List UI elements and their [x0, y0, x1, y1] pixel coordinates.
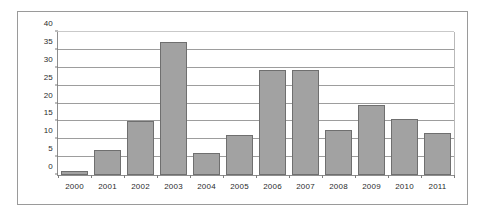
bar-2002[interactable]	[127, 121, 155, 175]
x-axis-tick-mark	[58, 175, 59, 178]
bar-2005[interactable]	[226, 135, 254, 175]
y-axis-tick-label: 5	[48, 144, 53, 153]
x-axis-tick-mark	[289, 175, 290, 178]
x-axis-tick-label-2009: 2009	[362, 182, 381, 191]
bar-2007[interactable]	[292, 70, 320, 175]
x-axis-tick-label-2002: 2002	[131, 182, 150, 191]
bar-2011[interactable]	[424, 133, 452, 175]
x-axis-tick-mark	[124, 175, 125, 178]
x-axis-tick-mark	[190, 175, 191, 178]
bar-2004[interactable]	[193, 153, 221, 175]
bar-2009[interactable]	[358, 105, 386, 175]
x-axis-tick-label-2003: 2003	[164, 182, 183, 191]
bar-slot	[256, 32, 289, 175]
bar-slot	[388, 32, 421, 175]
y-axis-tick-label: 10	[44, 126, 53, 135]
x-axis-tick-label-2011: 2011	[428, 182, 446, 191]
bar-2010[interactable]	[391, 119, 419, 175]
x-axis-tick-label-2001: 2001	[98, 182, 117, 191]
plot-area: 0510152025303540 20002001200220032004200…	[57, 32, 455, 176]
x-axis-tick-mark	[421, 175, 422, 178]
y-axis-tick-label: 25	[44, 72, 53, 81]
x-axis-tick-label-2005: 2005	[230, 182, 249, 191]
x-axis-tick-mark	[157, 175, 158, 178]
bar-2006[interactable]	[259, 70, 287, 175]
y-axis-tick-label: 30	[44, 54, 53, 63]
x-axis-tick-mark	[322, 175, 323, 178]
y-axis-tick-label: 40	[44, 19, 53, 28]
x-axis-tick-mark	[388, 175, 389, 178]
x-axis-tick-mark	[355, 175, 356, 178]
y-axis-tick-label: 20	[44, 90, 53, 99]
bar-slot	[322, 32, 355, 175]
x-axis-tick-label-2008: 2008	[329, 182, 348, 191]
x-axis-tick-label-2010: 2010	[395, 182, 414, 191]
x-axis-tick-mark	[256, 175, 257, 178]
bar-slot	[289, 32, 322, 175]
bar-slot	[124, 32, 157, 175]
x-axis-tick-label-2007: 2007	[296, 182, 315, 191]
y-axis-tick-label: 15	[44, 108, 53, 117]
bar-slot	[157, 32, 190, 175]
bar-slot	[355, 32, 388, 175]
y-axis-tick-label: 0	[48, 162, 53, 171]
bar-2001[interactable]	[94, 150, 122, 175]
x-axis-tick-mark	[223, 175, 224, 178]
bar-slot	[58, 32, 91, 175]
x-axis-tick-label-2000: 2000	[65, 182, 84, 191]
chart-figure: 0510152025303540 20002001200220032004200…	[17, 11, 468, 205]
x-axis-tick-mark	[91, 175, 92, 178]
bars-group	[58, 32, 454, 175]
bar-2003[interactable]	[160, 42, 188, 175]
bar-slot	[91, 32, 124, 175]
x-axis-tick-mark	[454, 175, 455, 178]
bar-slot	[421, 32, 454, 175]
x-axis-tick-label-2006: 2006	[263, 182, 282, 191]
bar-2000[interactable]	[61, 171, 89, 175]
x-axis-tick-label-2004: 2004	[197, 182, 216, 191]
bar-slot	[190, 32, 223, 175]
bar-slot	[223, 32, 256, 175]
y-axis-tick-label: 35	[44, 36, 53, 45]
bar-2008[interactable]	[325, 130, 353, 175]
